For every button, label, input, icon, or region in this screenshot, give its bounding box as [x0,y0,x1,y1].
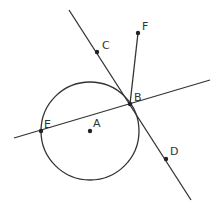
point-label-c: C [102,39,110,52]
point-label-b: B [134,91,142,104]
point-a [88,129,92,133]
point-d [164,157,168,161]
point-label-d: D [170,145,178,158]
point-label-f: F [142,20,148,33]
point-b [128,102,132,106]
point-f [136,31,140,35]
geometry-diagram: ABCDEF [0,0,217,209]
point-c [95,50,99,54]
point-label-a: A [93,117,101,130]
point-e [39,129,43,133]
point-label-e: E [44,118,51,131]
